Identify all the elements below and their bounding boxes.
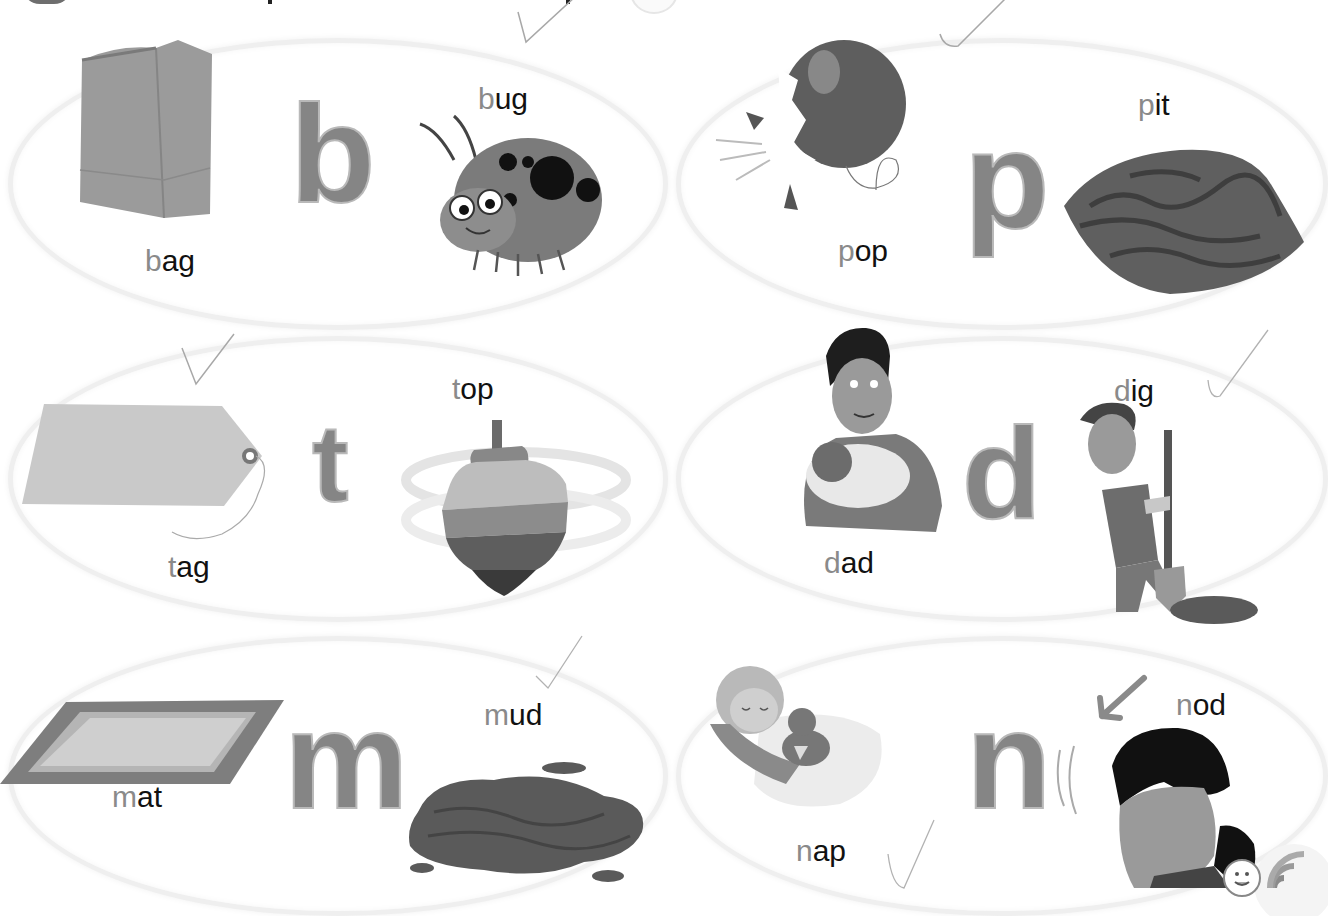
big-letter-d: d	[962, 408, 1041, 538]
word-label-bug: bug	[478, 84, 528, 114]
checkmark-tag	[182, 336, 242, 386]
checkmark-pop	[936, 2, 996, 52]
word-label-tag: tag	[168, 552, 210, 582]
nod-arrow-icon	[1092, 676, 1150, 724]
mat-illustration	[0, 700, 286, 784]
price-tag-illustration	[22, 404, 282, 544]
audio-listen-icon[interactable]	[1222, 844, 1324, 888]
peach-pit-illustration	[1060, 146, 1306, 296]
big-letter-t: t	[312, 408, 349, 518]
paper-bag-illustration	[78, 40, 213, 220]
word-label-nap: nap	[796, 836, 846, 866]
big-letter-n: n	[966, 690, 1052, 830]
big-letter-p: p	[964, 110, 1050, 250]
word-label-top: top	[452, 374, 494, 404]
section-number-badge	[22, 0, 72, 4]
word-label-dad: dad	[824, 548, 874, 578]
boy-digging-illustration	[1074, 400, 1260, 626]
word-label-pop: pop	[838, 236, 888, 266]
checkmark-dig	[1206, 350, 1266, 400]
big-letter-b: b	[290, 84, 376, 224]
mud-puddle-illustration	[404, 762, 648, 882]
checkmark-bug	[516, 2, 576, 52]
father-holding-baby-illustration	[796, 326, 956, 536]
word-label-nod: nod	[1176, 690, 1226, 720]
ladybug-illustration	[418, 120, 608, 280]
popping-balloon-illustration	[706, 40, 926, 220]
header-text-fragment	[268, 0, 272, 4]
baby-napping-illustration	[690, 664, 886, 814]
header-icon	[630, 0, 678, 14]
word-label-bag: bag	[145, 246, 195, 276]
checkmark-mud	[536, 640, 596, 690]
big-letter-m: m	[284, 690, 408, 830]
spinning-top-illustration	[396, 420, 636, 598]
word-label-pit: pit	[1138, 90, 1170, 120]
word-label-mat: mat	[112, 782, 162, 812]
checkmark-nap	[888, 834, 948, 884]
word-label-mud: mud	[484, 700, 542, 730]
